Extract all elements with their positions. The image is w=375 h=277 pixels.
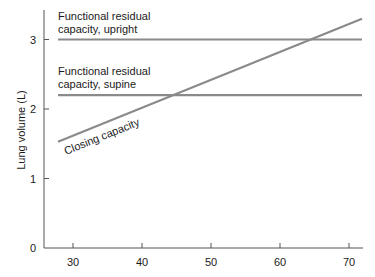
y-axis-title: Lung volume (L) (15, 90, 27, 170)
chart-canvas: 01233040506070 Functional residualcapaci… (0, 0, 375, 277)
y-tick-label: 3 (30, 34, 36, 46)
x-tick-label: 30 (67, 256, 79, 268)
x-tick-label: 50 (205, 256, 217, 268)
y-tick-label: 1 (30, 173, 36, 185)
frc-supine-label: Functional residualcapacity, supine (58, 65, 150, 90)
y-tick-label: 2 (30, 103, 36, 115)
lung-volume-chart: 01233040506070 Functional residualcapaci… (0, 0, 375, 277)
x-tick-label: 70 (343, 256, 355, 268)
x-tick-label: 60 (274, 256, 286, 268)
y-tick-label: 0 (30, 242, 36, 254)
x-tick-label: 40 (136, 256, 148, 268)
frc-upright-label: Functional residualcapacity, upright (58, 10, 150, 35)
series-labels: Functional residualcapacity, uprightFunc… (58, 10, 150, 157)
